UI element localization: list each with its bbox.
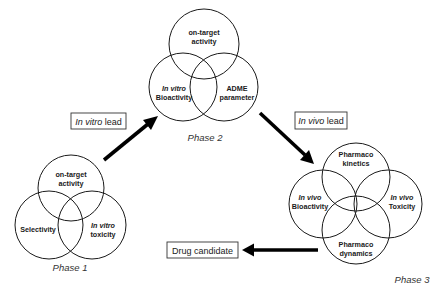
phase2-in-vitro-label: In vitro: [162, 84, 187, 93]
phase-1-venn: on-target activity Selectivity In vitro …: [15, 155, 126, 273]
phase3-pharmaco-k-line1: Pharmaco: [339, 150, 374, 159]
phase3-in-vivo-tox-line1: In vivo: [391, 193, 414, 202]
phase1-selectivity-label: Selectivity: [20, 225, 56, 234]
phase1-on-target-line1: on-target: [55, 170, 87, 179]
phase-3-venn: Pharmaco kinetics In vivo Bioactivity In…: [289, 143, 430, 285]
phase1-circle-on-target: [38, 155, 104, 221]
phase1-in-vitro-label: In vitro: [91, 221, 116, 230]
phase3-in-vivo-bio-line1: In vivo: [299, 193, 322, 202]
in-vivo-lead-rest: lead: [324, 116, 344, 126]
phase1-toxicity-label: toxicity: [90, 230, 115, 239]
in-vitro-lead-rest: lead: [102, 117, 122, 127]
phase2-on-target-line2: activity: [192, 37, 217, 46]
phase2-on-target-line1: on-target: [188, 28, 220, 37]
phase-2-venn: on-target activity In vitro Bioactivity …: [149, 9, 258, 143]
in-vivo-lead-label: In vivo lead: [298, 116, 344, 126]
phase2-adme-label: ADME: [226, 84, 247, 93]
transition-drug-candidate: Drug candidate: [167, 242, 318, 258]
phase3-dynamics-line2: dynamics: [339, 249, 372, 258]
phase3-kinetics-line2: kinetics: [343, 159, 370, 168]
phase2-title: Phase 2: [188, 132, 224, 143]
transition-in-vitro-lead: In vitro lead: [71, 113, 158, 160]
phase3-toxicity-line2: Toxicity: [389, 202, 416, 211]
transition-in-vivo-lead: In vivo lead: [260, 112, 347, 164]
drug-discovery-diagram: on-target activity Selectivity In vitro …: [0, 0, 438, 290]
phase2-bioactivity-label: Bioactivity: [156, 93, 192, 102]
in-vitro-lead-italic: In vitro: [75, 117, 102, 127]
phase3-pharmaco-d-line1: Pharmaco: [339, 240, 374, 249]
in-vitro-lead-label: In vitro lead: [75, 117, 122, 127]
phase3-title: Phase 3: [395, 274, 431, 285]
phase3-bioactivity-line2: Bioactivity: [292, 202, 328, 211]
phase1-on-target-line2: activity: [59, 179, 84, 188]
in-vivo-lead-italic: In vivo: [298, 116, 324, 126]
phase2-parameter-label: parameter: [220, 93, 255, 102]
phase2-circle-adme: [190, 53, 258, 121]
arrow-head-candidate: [242, 244, 254, 257]
drug-candidate-label: Drug candidate: [172, 246, 233, 256]
phase1-title: Phase 1: [53, 262, 88, 273]
